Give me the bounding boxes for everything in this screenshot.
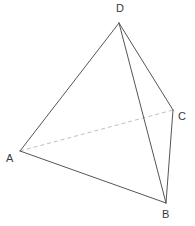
edge-d-c <box>119 23 173 110</box>
edge-d-b <box>119 23 166 203</box>
vertex-label-b: B <box>162 209 169 220</box>
tetrahedron-canvas <box>0 0 195 226</box>
vertex-label-d: D <box>116 3 124 14</box>
vertex-label-a: A <box>6 153 13 164</box>
edge-a-b <box>20 151 166 203</box>
edge-a-d <box>20 23 119 151</box>
edge-a-c <box>20 110 173 151</box>
edge-c-b <box>166 110 173 203</box>
vertex-label-c: C <box>178 111 186 122</box>
tetrahedron-figure: D A B C <box>0 0 195 226</box>
